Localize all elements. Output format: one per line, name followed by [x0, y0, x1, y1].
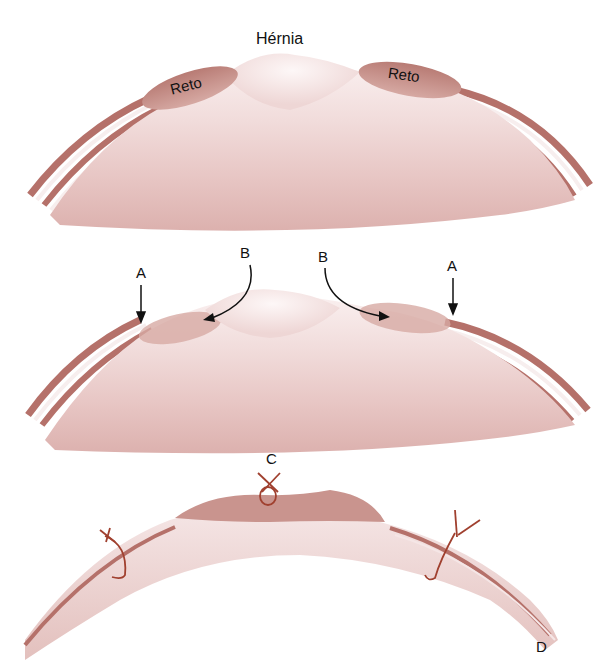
rectus-muscles-approximated	[175, 490, 385, 522]
label-d-wall-end: D	[536, 638, 547, 655]
arrow-a-right	[449, 278, 457, 314]
panel-bottom	[25, 473, 558, 660]
label-a-left: A	[136, 264, 146, 281]
label-c-midline-suture: C	[266, 450, 277, 467]
label-b-left: B	[240, 244, 250, 261]
label-b-right: B	[318, 248, 328, 265]
label-hernia: Hérnia	[256, 30, 303, 48]
abdominal-wall-sutured	[25, 500, 558, 660]
panel-middle	[28, 265, 588, 453]
arrow-a-left	[137, 285, 145, 322]
panel-top	[30, 54, 590, 231]
label-a-right: A	[447, 257, 457, 274]
hernia-repair-diagram	[0, 0, 613, 668]
